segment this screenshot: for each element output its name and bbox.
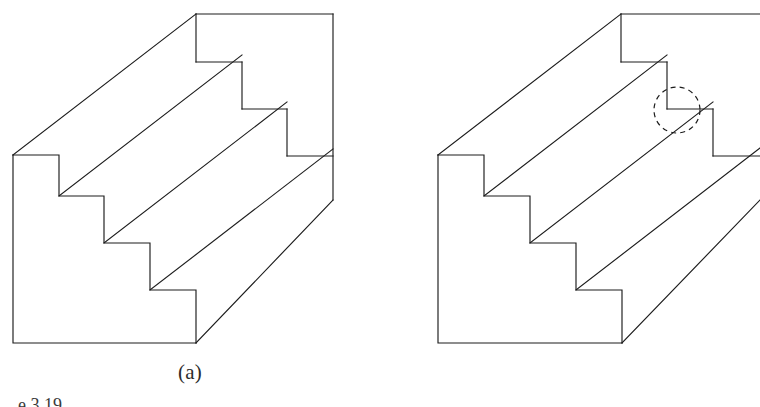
figure-b: (b) xyxy=(380,0,760,407)
figure-number-partial: e 3.19 xyxy=(18,396,238,407)
figure-b-solid-fill xyxy=(438,14,760,343)
figure-a-drawing xyxy=(0,0,380,360)
figure-b-drawing xyxy=(380,0,760,360)
figure-a: (a) xyxy=(0,0,380,407)
figure-page: (a) (b) e 3.19 xyxy=(0,0,760,407)
figure-a-caption: (a) xyxy=(0,362,380,383)
figure-a-solid-fill xyxy=(13,14,333,343)
